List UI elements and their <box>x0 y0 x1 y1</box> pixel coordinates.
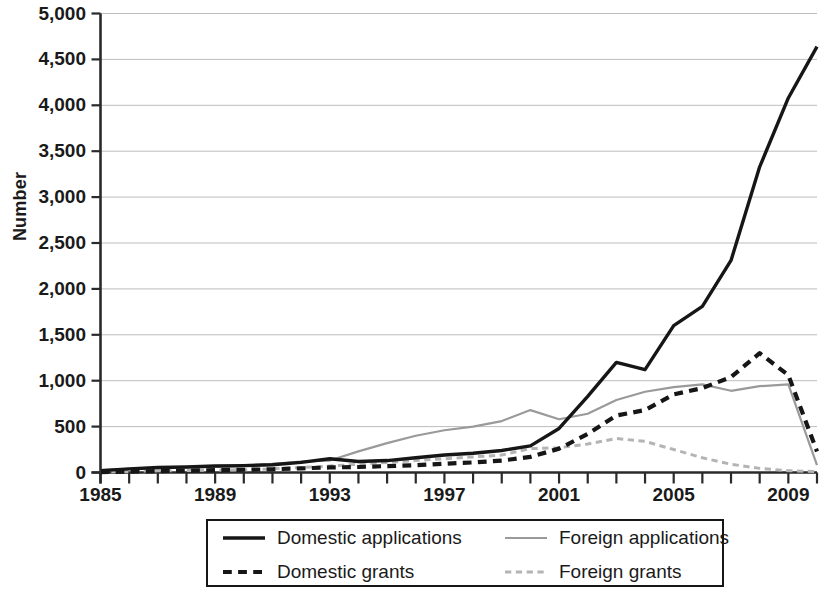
legend-item: Domestic applications <box>208 527 490 549</box>
x-axis-tick-label: 1993 <box>309 484 351 506</box>
x-axis-tick-label: 2001 <box>538 484 580 506</box>
legend-item: Domestic grants <box>208 561 490 583</box>
legend-line-swatch <box>504 565 548 579</box>
legend-item: Foreign applications <box>490 527 726 549</box>
legend-label: Domestic grants <box>277 561 414 583</box>
legend-label: Foreign applications <box>559 527 729 549</box>
x-axis-tick-label: 1997 <box>423 484 465 506</box>
x-axis-tick-label: 2009 <box>767 484 809 506</box>
x-axis-tick-label: 2005 <box>653 484 695 506</box>
legend-line-swatch <box>222 531 266 545</box>
series-line-domestic-applications <box>101 47 818 471</box>
legend-line-swatch <box>504 531 548 545</box>
legend-item: Foreign grants <box>490 561 726 583</box>
x-axis-tick-label: 1989 <box>194 484 236 506</box>
legend-label: Domestic applications <box>277 527 462 549</box>
line-chart: Number 5,0004,5004,0003,5003,0002,5002,0… <box>0 0 831 589</box>
legend-line-swatch <box>222 565 266 579</box>
x-axis-tick-labels: 1985198919931997200120052009 <box>0 484 831 512</box>
legend-label: Foreign grants <box>559 561 682 583</box>
chart-legend: Domestic applicationsForeign application… <box>206 519 724 587</box>
x-axis-tick-label: 1985 <box>79 484 121 506</box>
